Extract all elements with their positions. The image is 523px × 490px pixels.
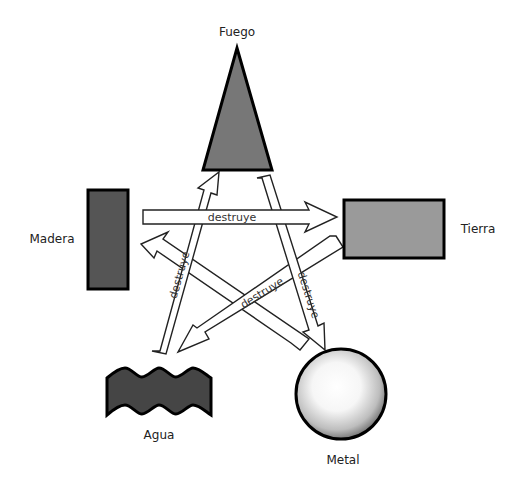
arrow-label: destruye — [238, 275, 286, 312]
agua-label: Agua — [144, 428, 175, 442]
earth-rectangle — [344, 200, 444, 258]
wood-rectangle — [88, 190, 128, 289]
element-fuego: Fuego — [203, 25, 272, 170]
element-madera: Madera — [30, 190, 129, 289]
water-wave — [107, 368, 211, 415]
element-agua: Agua — [107, 368, 211, 442]
arrow-label: destruye — [208, 211, 257, 224]
fire-triangle — [203, 48, 272, 170]
fuego-label: Fuego — [219, 25, 255, 39]
element-tierra: Tierra — [344, 200, 495, 258]
element-metal: Metal — [296, 349, 386, 467]
tierra-label: Tierra — [460, 222, 496, 236]
metal-label: Metal — [326, 453, 359, 467]
arrow-madera-to-tierra: destruye — [143, 202, 337, 232]
madera-label: Madera — [30, 232, 75, 246]
metal-sphere — [296, 349, 386, 439]
five-elements-diagram: destruye destruye destruye destruye Fueg… — [0, 0, 523, 490]
